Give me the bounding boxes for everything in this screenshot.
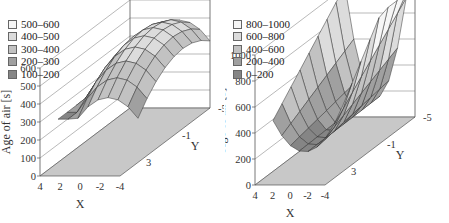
x-tick-label: -2 xyxy=(96,181,105,192)
legend-label: 800–1000 xyxy=(246,18,290,31)
x-tick-label: 0 xyxy=(287,190,292,201)
z-tick-label: 0 xyxy=(246,180,251,191)
chart-left: 0100200300400500600420-2-43-1-5XYAge of … xyxy=(0,0,224,223)
z-tick-label: 400 xyxy=(20,99,36,110)
legend-label: 200–300 xyxy=(21,55,60,68)
y-axis-label: Y xyxy=(396,148,405,162)
legend-item: 200–300 xyxy=(8,56,60,69)
legend-right: 800–1000 600–800 400–600 200–400 0–200 xyxy=(233,18,290,81)
z-tick-label: 0 xyxy=(31,171,36,182)
x-axis-label: X xyxy=(286,206,295,220)
legend-label: 100–200 xyxy=(21,68,60,81)
x-tick-label: -4 xyxy=(321,190,330,201)
legend-label: 600–800 xyxy=(246,30,285,43)
legend-swatch xyxy=(233,45,242,54)
z-tick-label: 300 xyxy=(20,117,36,128)
legend-swatch xyxy=(8,20,17,29)
x-tick-label: 4 xyxy=(252,190,258,201)
legend-item: 400–600 xyxy=(233,43,290,56)
legend-left: 500–600 400–500 300–400 200–300 100–200 xyxy=(8,18,60,81)
x-tick-label: 0 xyxy=(77,181,82,192)
legend-label: 0–200 xyxy=(246,68,274,81)
z-axis-label: Age of air [s] xyxy=(0,90,13,154)
z-tick-label: 500 xyxy=(20,81,36,92)
y-axis-label: Y xyxy=(191,139,200,153)
x-axis-label: X xyxy=(76,197,85,211)
legend-swatch xyxy=(8,70,17,79)
legend-swatch xyxy=(233,57,242,66)
z-axis-label: Age of air [s] xyxy=(225,88,228,152)
y-tick-label: -1 xyxy=(182,130,191,141)
chart-right: 02004006008001000420-2-43-1-5XYAge of ai… xyxy=(225,0,449,223)
x-tick-label: -2 xyxy=(303,190,312,201)
z-tick-label: 400 xyxy=(235,128,251,139)
y-tick-label: -1 xyxy=(387,139,396,150)
legend-item: 400–500 xyxy=(8,31,60,44)
x-tick-label: 2 xyxy=(57,181,62,192)
legend-item: 600–800 xyxy=(233,31,290,44)
legend-label: 500–600 xyxy=(21,18,60,31)
legend-swatch xyxy=(8,45,17,54)
legend-label: 400–600 xyxy=(246,43,285,56)
legend-item: 200–400 xyxy=(233,56,290,69)
x-tick-label: 2 xyxy=(270,190,275,201)
y-tick-label: 3 xyxy=(146,157,151,168)
legend-label: 200–400 xyxy=(246,55,285,68)
legend-label: 300–400 xyxy=(21,43,60,56)
x-tick-label: -4 xyxy=(116,181,125,192)
legend-swatch xyxy=(8,57,17,66)
legend-swatch xyxy=(233,20,242,29)
legend-swatch xyxy=(233,32,242,41)
legend-item: 100–200 xyxy=(8,68,60,81)
legend-swatch xyxy=(233,70,242,79)
y-tick-label: -5 xyxy=(218,103,224,114)
z-tick-label: 600 xyxy=(235,102,251,113)
y-tick-label: -5 xyxy=(423,112,432,123)
legend-item: 800–1000 xyxy=(233,18,290,31)
x-tick-label: 4 xyxy=(37,181,43,192)
legend-item: 500–600 xyxy=(8,18,60,31)
legend-item: 0–200 xyxy=(233,68,290,81)
legend-label: 400–500 xyxy=(21,30,60,43)
z-tick-label: 200 xyxy=(235,154,251,165)
legend-item: 300–400 xyxy=(8,43,60,56)
legend-swatch xyxy=(8,32,17,41)
y-tick-label: 3 xyxy=(351,166,356,177)
z-tick-label: 100 xyxy=(20,153,36,164)
z-tick-label: 200 xyxy=(20,135,36,146)
